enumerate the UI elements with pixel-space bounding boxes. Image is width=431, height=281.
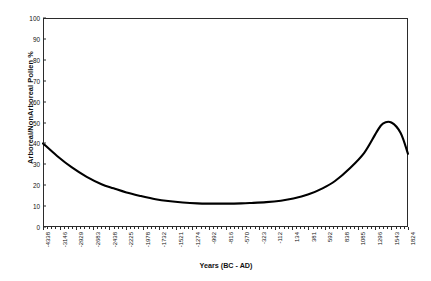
x-tick-mark [308,227,309,230]
y-tick-mark [43,80,46,81]
x-tick-mark-minor [255,227,256,229]
plot-area: 0102030405060708090100-4338-3146-2929-26… [43,18,408,227]
x-tick-mark-minor [300,227,301,229]
x-tick-mark-minor [271,227,272,229]
x-tick-label: 134 [294,232,300,242]
x-tick-mark-minor [114,227,115,229]
x-tick-mark [292,227,293,230]
y-tick-mark [43,18,46,19]
x-tick-mark-minor [55,227,56,229]
y-tick-label: 60 [33,98,40,105]
x-tick-mark-minor [371,227,372,229]
x-tick-label: 1824 [410,232,416,245]
y-tick-label: 20 [33,182,40,189]
x-tick-label: -992 [211,232,217,244]
x-tick-mark [242,227,243,230]
x-tick-mark-minor [313,227,314,229]
y-tick-mark [43,101,46,102]
y-tick-label: 100 [29,15,40,22]
x-tick-mark-minor [118,227,119,229]
x-tick-mark-minor [304,227,305,229]
x-tick-mark-minor [284,227,285,229]
y-tick-label: 0 [36,224,40,231]
x-tick-mark [76,227,77,230]
x-tick-mark-minor [230,227,231,229]
x-tick-mark-minor [180,227,181,229]
x-tick-mark [209,227,210,230]
x-tick-mark-minor [184,227,185,229]
x-tick-label: -323 [261,232,267,244]
x-tick-label: -2929 [78,232,84,247]
x-tick-mark-minor [155,227,156,229]
x-tick-label: -3146 [62,232,68,247]
chart-figure: Arboreal/NonArboreal Pollen % 0102030405… [0,0,431,281]
x-tick-label: -570 [244,232,250,244]
x-tick-mark-minor [188,227,189,229]
x-tick-mark-minor [68,227,69,229]
y-tick-mark [43,59,46,60]
y-tick-label: 30 [33,161,40,168]
x-tick-mark [275,227,276,230]
pollen-curve-svg [43,18,408,227]
x-tick-mark-minor [246,227,247,229]
x-tick-mark-minor [337,227,338,229]
x-tick-mark-minor [147,227,148,229]
x-tick-mark-minor [72,227,73,229]
x-tick-mark-minor [329,227,330,229]
x-tick-mark-minor [101,227,102,229]
x-tick-mark-minor [196,227,197,229]
x-tick-label: 838 [344,232,350,242]
x-tick-mark-minor [89,227,90,229]
x-tick-mark [325,227,326,230]
x-tick-label: -2683 [95,232,101,247]
x-tick-mark-minor [288,227,289,229]
x-tick-mark-minor [296,227,297,229]
x-tick-mark-minor [217,227,218,229]
x-tick-label: -816 [228,232,234,244]
x-tick-mark-minor [346,227,347,229]
x-tick-mark-minor [221,227,222,229]
y-tick-mark [43,206,46,207]
x-axis-title: Years (BC - AD) [43,261,409,270]
x-tick-label: 592 [327,232,333,242]
x-tick-mark-minor [379,227,380,229]
x-tick-mark [126,227,127,230]
x-tick-mark [159,227,160,230]
x-tick-mark-minor [205,227,206,229]
x-tick-mark [358,227,359,230]
x-tick-mark [93,227,94,230]
x-tick-mark-minor [238,227,239,229]
x-tick-mark-minor [105,227,106,229]
x-tick-label: 1085 [360,232,366,245]
y-tick-mark [43,38,46,39]
x-tick-mark-minor [172,227,173,229]
x-tick-mark-minor [333,227,334,229]
x-tick-mark [408,227,409,230]
x-tick-mark-minor [367,227,368,229]
x-tick-mark [375,227,376,230]
y-tick-label: 40 [33,140,40,147]
y-tick-label: 50 [33,119,40,126]
x-tick-label: -112 [277,232,283,244]
x-tick-mark [342,227,343,230]
x-tick-label: 1296 [377,232,383,245]
x-tick-mark [226,227,227,230]
x-tick-mark-minor [234,227,235,229]
x-tick-mark-minor [151,227,152,229]
x-tick-mark [176,227,177,230]
x-tick-label: -1732 [161,232,167,247]
y-tick-label: 90 [33,35,40,42]
x-tick-mark-minor [64,227,65,229]
x-tick-label: -1521 [178,232,184,247]
x-tick-label: -1978 [145,232,151,247]
x-tick-label: -2438 [112,232,118,247]
x-tick-mark-minor [163,227,164,229]
x-tick-mark [259,227,260,230]
x-tick-mark-minor [396,227,397,229]
x-tick-mark-minor [263,227,264,229]
x-tick-mark-minor [279,227,280,229]
x-tick-mark-minor [267,227,268,229]
x-tick-mark-minor [201,227,202,229]
y-tick-mark [43,122,46,123]
x-tick-label: -1274 [195,232,201,247]
